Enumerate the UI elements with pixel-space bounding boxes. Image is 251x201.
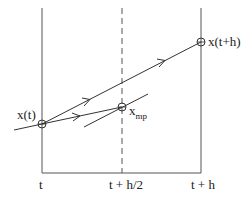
start-point-label: x(t) — [17, 107, 36, 122]
end-point-label: x(t+h) — [208, 34, 241, 49]
axis-label-t: t — [39, 177, 43, 192]
axis-label-t-plus-h: t + h — [191, 177, 215, 192]
midpoint-label-subscript: mp — [136, 111, 148, 121]
midpoint-method-diagram: x(t) xmp x(t+h) t t + h/2 t + h — [0, 0, 251, 201]
arrow-head-icon — [82, 98, 90, 106]
axis-label-t-half-h: t + h/2 — [109, 177, 143, 192]
half-step-line — [42, 107, 122, 124]
midpoint-label: xmp — [129, 103, 148, 121]
